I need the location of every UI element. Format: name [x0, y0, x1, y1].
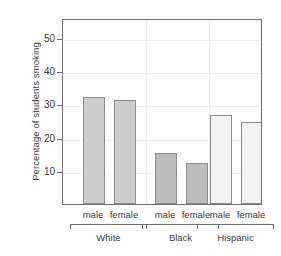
bar-chart: Percentage of students smoking 50 40 30 …	[0, 0, 281, 256]
group-label-hispanic: Hispanic	[197, 232, 274, 243]
bar-hispanic-male	[210, 115, 232, 204]
y-tick-label-10: 10	[15, 167, 55, 177]
plot-area	[62, 19, 262, 205]
bar-white-female	[114, 100, 136, 204]
y-tick-label-30: 30	[15, 100, 55, 110]
x-tick-label-hispanic-female: female	[227, 209, 275, 220]
bar-black-female	[186, 163, 208, 204]
bar-black-male	[155, 153, 177, 204]
gridline-50	[63, 40, 261, 41]
y-tick-label-20: 20	[15, 134, 55, 144]
group-bracket-hispanic	[197, 224, 274, 229]
bar-hispanic-female	[241, 122, 262, 204]
bar-white-male	[83, 97, 105, 204]
group-label-white: White	[70, 232, 147, 243]
y-tick-label-40: 40	[15, 67, 55, 77]
y-axis-title: Percentage of students smoking	[30, 17, 41, 207]
gridline-40	[63, 73, 261, 74]
group-bracket-white	[70, 224, 147, 229]
group-divider-0	[146, 20, 147, 204]
y-tick-label-50: 50	[15, 34, 55, 44]
